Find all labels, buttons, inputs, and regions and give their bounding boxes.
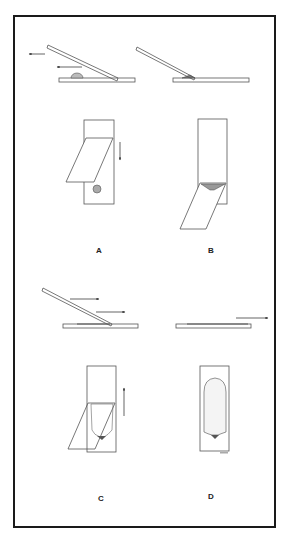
panel-label-b: B bbox=[208, 246, 214, 255]
panel-d-side-view bbox=[176, 318, 268, 328]
blood-smear-diagram: A B C bbox=[0, 0, 289, 545]
panel-d: D bbox=[176, 318, 268, 501]
blood-drop-icon bbox=[71, 73, 83, 78]
panel-b-side-view bbox=[136, 47, 249, 82]
spreader-slide bbox=[136, 47, 195, 80]
panel-label-a: A bbox=[96, 246, 102, 255]
spreader-slide bbox=[66, 138, 113, 182]
panel-label-c: C bbox=[98, 494, 104, 503]
blood-smear bbox=[187, 323, 248, 325]
spreader-slide bbox=[42, 288, 112, 326]
blood-smear bbox=[204, 378, 226, 435]
panel-b-top-view bbox=[180, 119, 227, 229]
panel-c-top-view bbox=[68, 366, 124, 452]
base-slide bbox=[173, 78, 249, 82]
spreader-slide bbox=[180, 183, 226, 229]
panel-a: A bbox=[29, 45, 135, 255]
figure-frame bbox=[14, 16, 275, 527]
panel-a-side-view bbox=[29, 45, 135, 82]
blood-drop-icon bbox=[211, 435, 219, 439]
panel-c: C bbox=[42, 288, 138, 503]
panel-b: B bbox=[136, 47, 249, 255]
blood-drop-icon bbox=[97, 436, 106, 440]
blood-drop-icon bbox=[93, 185, 101, 193]
tiny-caption-mark bbox=[220, 452, 228, 454]
base-slide bbox=[59, 78, 135, 82]
panel-c-side-view bbox=[42, 288, 138, 328]
panel-label-d: D bbox=[208, 492, 214, 501]
panel-d-top-view bbox=[200, 366, 229, 454]
panel-a-top-view bbox=[66, 120, 120, 204]
